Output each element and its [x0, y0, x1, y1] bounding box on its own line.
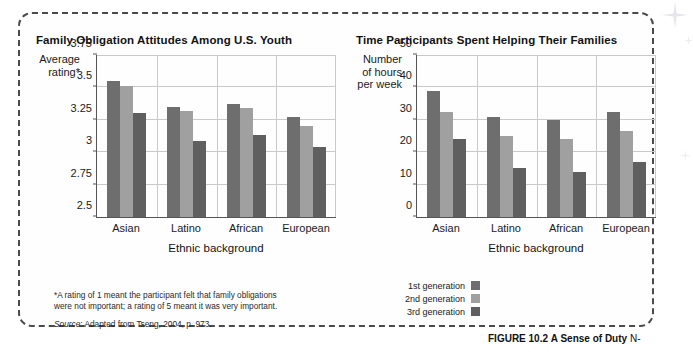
bar — [287, 117, 300, 217]
bar-group — [537, 55, 597, 217]
footnote-line-2: were not important; a rating of 5 meant … — [54, 301, 344, 312]
figure-caption-tail: N- — [630, 333, 641, 344]
bar — [607, 112, 620, 217]
bar — [620, 131, 633, 217]
footnote-source-text: : Adapted from Tseng, 2004, p. 973. — [80, 319, 211, 329]
x-axis-title-right: Ethnic background — [416, 242, 656, 254]
chart-area-left: Average rating* 2.52.7533.253.53.75 Asia… — [36, 55, 336, 240]
bar — [513, 168, 526, 217]
bar — [500, 136, 513, 217]
footnote: *A rating of 1 meant the participant fel… — [54, 290, 344, 330]
bar — [487, 117, 500, 217]
legend-swatch — [471, 281, 480, 290]
bar — [227, 104, 240, 217]
x-axis-tick-label: African — [229, 222, 263, 234]
y-axis-caption-right-line3: per week — [350, 78, 402, 91]
y-axis-tick-label: 20 — [400, 134, 412, 146]
legend-item-label: 1st generation — [408, 281, 465, 291]
y-axis-tick-label: 3.75 — [71, 37, 92, 49]
x-axis-labels-right: AsianLatinoAfricanEuropean — [416, 220, 656, 234]
legend-item-label: 2nd generation — [405, 294, 465, 304]
y-axis-tick-label: 3.25 — [71, 102, 92, 114]
y-axis-caption-right-line2: of hours — [350, 66, 402, 79]
bar — [133, 113, 146, 217]
y-axis-tick-label: 50 — [400, 37, 412, 49]
bar — [253, 135, 266, 217]
bar — [300, 126, 313, 217]
bar — [633, 162, 646, 217]
sparkle-decoration-small — [684, 36, 693, 45]
legend: 1st generation2nd generation3rd generati… — [360, 279, 480, 318]
y-axis-tick-label: 2.5 — [77, 199, 92, 211]
x-axis-tick-label: Asian — [432, 222, 460, 234]
bar — [167, 107, 180, 217]
bar — [193, 141, 206, 217]
x-axis-title-left: Ethnic background — [96, 242, 336, 254]
x-axis-labels-left: AsianLatinoAfricanEuropean — [96, 220, 336, 234]
plot-right: 01020304050 — [416, 55, 656, 218]
y-axis-tick-label: 0 — [406, 199, 412, 211]
legend-item: 3rd generation — [360, 305, 480, 318]
x-axis-tick-label: Latino — [491, 222, 521, 234]
x-axis-tick-label: Asian — [112, 222, 140, 234]
figure-dashed-container: Family Obligation Attitudes Among U.S. Y… — [18, 12, 654, 327]
bar-group — [217, 55, 277, 217]
bar — [240, 108, 253, 217]
bar-group — [97, 55, 157, 217]
bar — [440, 112, 453, 217]
y-axis-tick-label: 40 — [400, 69, 412, 81]
x-axis-tick-label: African — [549, 222, 583, 234]
legend-item: 2nd generation — [360, 292, 480, 305]
legend-swatch — [471, 307, 480, 316]
bar — [107, 81, 120, 217]
legend-item: 1st generation — [360, 279, 480, 292]
chart-panel-left: Family Obligation Attitudes Among U.S. Y… — [36, 34, 336, 240]
bar — [427, 91, 440, 217]
figure-caption-title: A Sense of Duty — [551, 333, 627, 344]
sparkle-decoration-top-right — [662, 2, 688, 28]
bar-group — [276, 55, 336, 217]
bars-left — [97, 55, 336, 217]
bar — [453, 139, 466, 217]
y-axis-tick-label: 3.5 — [77, 69, 92, 81]
x-axis-tick-label: European — [282, 222, 330, 234]
bar — [547, 120, 560, 217]
bar-group — [477, 55, 537, 217]
bars-right — [417, 55, 656, 217]
chart-panel-right: Time Participants Spent Helping Their Fa… — [356, 34, 656, 240]
footnote-source: Source: Adapted from Tseng, 2004, p. 973… — [54, 319, 344, 330]
bar-group — [596, 55, 656, 217]
bar — [120, 86, 133, 217]
bar — [560, 139, 573, 217]
y-axis-caption-right-line1: Number — [350, 53, 402, 66]
bar-group — [417, 55, 477, 217]
y-axis-tick-label: 10 — [400, 167, 412, 179]
chart-area-right: Number of hours per week 01020304050 Asi… — [356, 55, 656, 240]
plot-left: 2.52.7533.253.53.75 — [96, 55, 336, 218]
legend-swatch — [471, 294, 480, 303]
figure-caption: FIGURE 10.2 A Sense of Duty N- — [488, 333, 640, 344]
figure-caption-label: FIGURE 10.2 — [488, 333, 548, 344]
y-axis-caption-right: Number of hours per week — [350, 53, 402, 91]
footnote-line-1: *A rating of 1 meant the participant fel… — [54, 290, 344, 301]
sparkle-decoration-mid-right — [680, 150, 691, 161]
y-axis-caption-left-line1: Average — [28, 53, 80, 66]
x-axis-tick-label: European — [602, 222, 650, 234]
y-axis-caption-left: Average rating* — [28, 53, 80, 78]
bar — [313, 147, 326, 217]
footnote-source-label: Source — [54, 319, 80, 329]
bar — [180, 111, 193, 217]
y-axis-caption-left-line2: rating* — [28, 66, 80, 79]
x-axis-tick-label: Latino — [171, 222, 201, 234]
y-axis-tick-label: 30 — [400, 102, 412, 114]
bar — [573, 172, 586, 217]
y-axis-tick-label: 3 — [86, 134, 92, 146]
y-axis-tick-label: 2.75 — [71, 167, 92, 179]
legend-item-label: 3rd generation — [407, 307, 465, 317]
bar-group — [157, 55, 217, 217]
